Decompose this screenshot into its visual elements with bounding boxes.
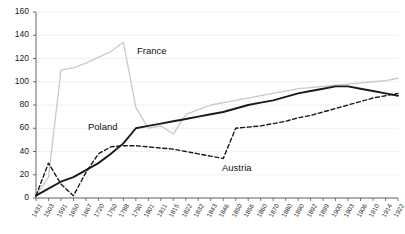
line-chart: 020406080100120140160 143115031591165016… xyxy=(0,0,405,234)
y-axis-tick-label: 60 xyxy=(3,123,29,132)
series-line-france xyxy=(36,42,398,195)
series-label-austria: Austria xyxy=(222,163,252,173)
series-label-france: France xyxy=(137,46,167,56)
y-axis-tick-label: 0 xyxy=(3,193,29,202)
y-axis-tick-label: 20 xyxy=(3,170,29,179)
series-line-austria xyxy=(36,93,398,195)
y-axis-tick-label: 120 xyxy=(3,54,29,63)
y-axis-tick-label: 40 xyxy=(3,147,29,156)
y-axis-tick-label: 100 xyxy=(3,77,29,86)
y-axis-tick-label: 140 xyxy=(3,30,29,39)
series-line-poland xyxy=(36,86,398,195)
y-axis-tick-label: 80 xyxy=(3,100,29,109)
y-axis-tick-label: 160 xyxy=(3,7,29,16)
series-label-poland: Poland xyxy=(88,122,118,132)
chart-plot-area xyxy=(0,0,405,234)
